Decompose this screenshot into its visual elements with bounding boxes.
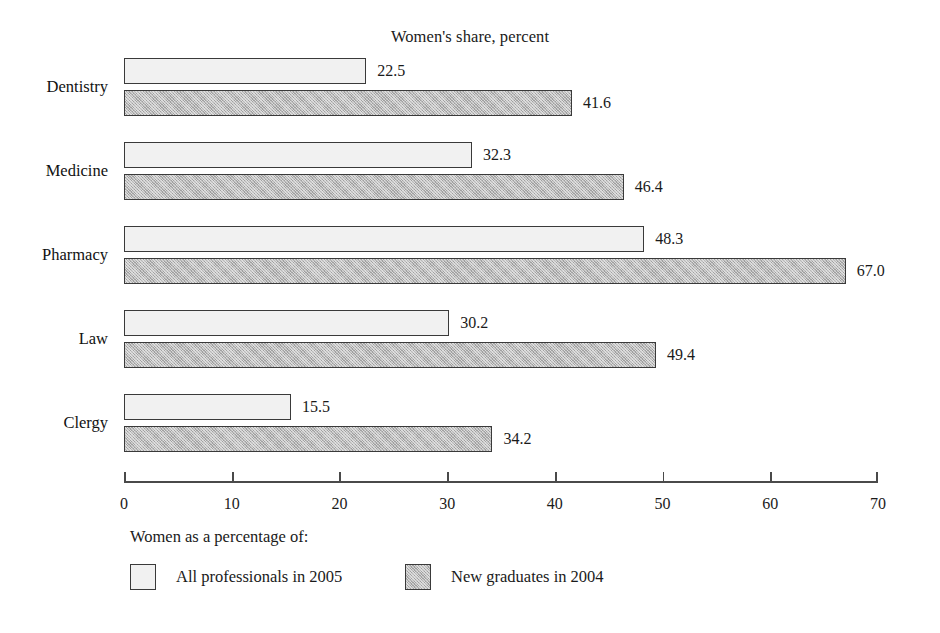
x-axis-tick: [232, 472, 234, 483]
bar-law-series-0[interactable]: [124, 310, 449, 336]
category-group: Dentistry22.541.6: [124, 58, 878, 116]
legend-swatch-icon-0: [130, 564, 156, 590]
category-group: Law30.249.4: [124, 310, 878, 368]
category-label-medicine: Medicine: [46, 161, 108, 181]
x-axis-tick: [447, 472, 449, 483]
category-label-law: Law: [79, 329, 108, 349]
x-axis-tick: [124, 472, 126, 483]
bar-row: 46.4: [124, 174, 878, 200]
bar-row: 48.3: [124, 226, 878, 252]
bar-row: 41.6: [124, 90, 878, 116]
x-axis-tick-label: 50: [655, 495, 671, 513]
bar-row: 32.3: [124, 142, 878, 168]
x-axis-tick-label: 20: [331, 495, 347, 513]
bar-clergy-series-1[interactable]: [124, 426, 492, 452]
bar-value-label: 22.5: [377, 62, 405, 80]
bar-value-label: 48.3: [655, 230, 683, 248]
legend-caption: Women as a percentage of:: [130, 527, 308, 547]
bar-row: 15.5: [124, 394, 878, 420]
x-axis-tick-label: 60: [762, 495, 778, 513]
x-axis-tick: [770, 472, 772, 483]
x-axis-tick: [663, 472, 665, 483]
category-label-dentistry: Dentistry: [47, 77, 108, 97]
bar-value-label: 49.4: [667, 346, 695, 364]
bar-clergy-series-0[interactable]: [124, 394, 291, 420]
x-axis-tick-label: 70: [870, 495, 886, 513]
bar-medicine-series-0[interactable]: [124, 142, 472, 168]
x-axis-tick: [339, 472, 341, 483]
legend-swatch-icon-1: [405, 564, 431, 590]
legend-label: All professionals in 2005: [176, 567, 342, 587]
bar-pharmacy-series-1[interactable]: [124, 258, 846, 284]
bar-value-label: 41.6: [583, 94, 611, 112]
x-axis-tick-label: 10: [224, 495, 240, 513]
bar-pharmacy-series-0[interactable]: [124, 226, 644, 252]
category-group: Medicine32.346.4: [124, 142, 878, 200]
bar-value-label: 34.2: [503, 430, 531, 448]
bar-value-label: 30.2: [460, 314, 488, 332]
bar-value-label: 15.5: [302, 398, 330, 416]
x-axis-tick-label: 30: [439, 495, 455, 513]
bar-medicine-series-1[interactable]: [124, 174, 624, 200]
x-axis-tick: [555, 472, 557, 483]
chart-title: Women's share, percent: [0, 27, 940, 47]
legend-entry-0[interactable]: All professionals in 2005: [130, 564, 342, 590]
bar-row: 67.0: [124, 258, 878, 284]
category-group: Pharmacy48.367.0: [124, 226, 878, 284]
x-axis-tick: [876, 472, 878, 483]
legend-entry-1[interactable]: New graduates in 2004: [405, 564, 604, 590]
bar-row: 49.4: [124, 342, 878, 368]
bar-value-label: 32.3: [483, 146, 511, 164]
bar-dentistry-series-0[interactable]: [124, 58, 366, 84]
x-axis-tick-label: 0: [120, 495, 128, 513]
bar-dentistry-series-1[interactable]: [124, 90, 572, 116]
x-axis: 010203040506070: [124, 481, 878, 483]
bar-row: 34.2: [124, 426, 878, 452]
legend-label: New graduates in 2004: [451, 567, 604, 587]
bar-value-label: 67.0: [857, 262, 885, 280]
bar-row: 30.2: [124, 310, 878, 336]
bar-value-label: 46.4: [635, 178, 663, 196]
bar-row: 22.5: [124, 58, 878, 84]
x-axis-tick-label: 40: [547, 495, 563, 513]
plot-area: Dentistry22.541.6Medicine32.346.4Pharmac…: [124, 58, 878, 468]
category-label-clergy: Clergy: [63, 413, 108, 433]
bar-chart: Women's share, percent Dentistry22.541.6…: [0, 0, 940, 633]
category-group: Clergy15.534.2: [124, 394, 878, 452]
bar-law-series-1[interactable]: [124, 342, 656, 368]
category-label-pharmacy: Pharmacy: [42, 245, 108, 265]
